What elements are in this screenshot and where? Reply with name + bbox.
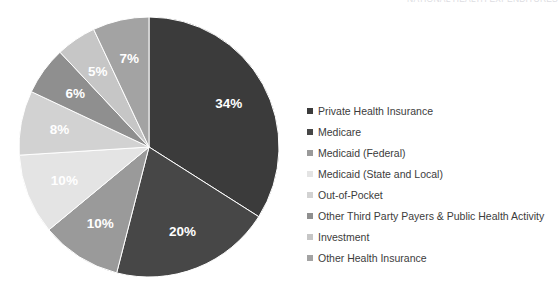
pie-data-label: 7% [119,51,139,66]
legend-item[interactable]: Private Health Insurance [307,100,555,121]
legend-swatch-icon [307,213,313,219]
pie-slice-group [19,17,279,277]
pie-data-label: 34% [215,96,242,111]
pie-data-label: 10% [87,216,114,231]
legend-item-label: Medicare [318,126,361,138]
legend-item-label: Investment [318,231,369,243]
legend-swatch-icon [307,129,313,135]
legend-swatch-icon [307,234,313,240]
legend-swatch-icon [307,171,313,177]
pie-chart-svg: 34%20%10%10%8%6%5%7% [18,16,280,280]
pie-data-label: 5% [88,64,108,79]
pie-chart-figure: NATIONAL HEALTH EXPENDITURES 34%20%10%10… [0,0,558,286]
legend-item-label: Other Health Insurance [318,252,427,264]
legend-item[interactable]: Other Third Party Payers & Public Health… [307,205,555,226]
legend-item-label: Other Third Party Payers & Public Health… [318,210,544,222]
pie-chart-plot-area: 34%20%10%10%8%6%5%7% [18,16,280,280]
legend-item-label: Medicaid (Federal) [318,147,406,159]
pie-data-label: 20% [169,224,196,239]
legend-item[interactable]: Other Health Insurance [307,247,555,268]
legend-swatch-icon [307,150,313,156]
legend-item[interactable]: Medicare [307,121,555,142]
legend-swatch-icon [307,192,313,198]
clipped-header-text: NATIONAL HEALTH EXPENDITURES [330,0,558,4]
legend-item-label: Out-of-Pocket [318,189,383,201]
legend-item[interactable]: Medicaid (Federal) [307,142,555,163]
legend-swatch-icon [307,108,313,114]
legend-item-label: Private Health Insurance [318,105,433,117]
legend-item[interactable]: Medicaid (State and Local) [307,163,555,184]
legend-item-label: Medicaid (State and Local) [318,168,443,180]
chart-legend: Private Health InsuranceMedicareMedicaid… [307,100,555,268]
legend-swatch-icon [307,255,313,261]
pie-data-label: 10% [51,173,78,188]
legend-item[interactable]: Out-of-Pocket [307,184,555,205]
pie-data-label: 8% [50,122,70,137]
pie-data-label: 6% [66,86,86,101]
legend-item[interactable]: Investment [307,226,555,247]
